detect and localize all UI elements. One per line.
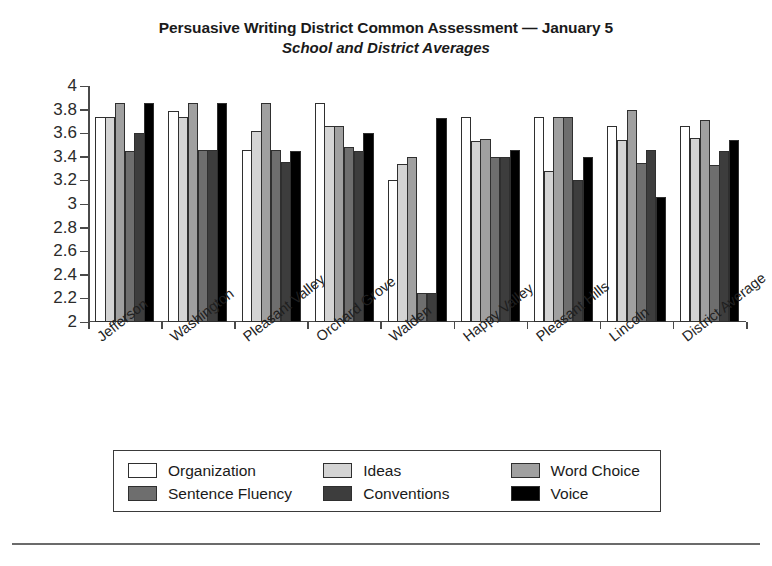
legend-item-voice: Voice	[511, 484, 660, 503]
y-tick-label: 3.6	[25, 122, 77, 143]
chart-title-block: Persuasive Writing District Common Asses…	[0, 18, 772, 57]
y-tick-mark	[80, 204, 88, 206]
bar-group	[461, 86, 519, 322]
y-tick-mark	[80, 109, 88, 111]
chart-figure: Persuasive Writing District Common Asses…	[0, 0, 772, 566]
legend-swatch-sentence-fluency	[128, 486, 157, 501]
legend-item-ideas: Ideas	[323, 461, 510, 480]
legend-label-voice: Voice	[551, 484, 589, 503]
bar	[490, 157, 500, 322]
y-tick-label: 2.2	[25, 287, 77, 308]
legend-label-organization: Organization	[168, 461, 256, 480]
legend-label-word-choice: Word Choice	[551, 461, 640, 480]
bar	[388, 180, 398, 322]
bar	[168, 111, 178, 322]
plot-area: 43.83.63.43.232.82.62.42.22	[88, 86, 746, 322]
y-tick-mark	[80, 251, 88, 253]
bar-group	[95, 86, 153, 322]
x-tick-mark	[746, 322, 748, 329]
legend-item-sentence-fluency: Sentence Fluency	[128, 484, 323, 503]
y-tick-label: 4	[25, 75, 77, 96]
bar	[334, 126, 344, 322]
bar	[261, 103, 271, 322]
legend-swatch-organization	[128, 463, 157, 478]
chart-legend: Organization Ideas Word Choice Sentence …	[113, 450, 661, 512]
bar	[344, 147, 354, 322]
bar	[134, 133, 144, 322]
bar	[680, 126, 690, 322]
legend-item-conventions: Conventions	[323, 484, 510, 503]
y-tick-mark	[80, 274, 88, 276]
bar	[480, 139, 490, 322]
bar	[198, 150, 208, 322]
bar	[251, 131, 261, 322]
y-tick-mark	[80, 133, 88, 135]
legend-label-conventions: Conventions	[363, 484, 449, 503]
y-tick-mark	[80, 298, 88, 300]
footer-divider	[12, 543, 760, 545]
bar	[105, 117, 115, 322]
bar	[690, 138, 700, 322]
legend-label-ideas: Ideas	[363, 461, 401, 480]
bar	[471, 141, 481, 322]
y-tick-mark	[80, 227, 88, 229]
bar	[324, 126, 334, 322]
bar	[627, 110, 637, 322]
bar	[553, 117, 563, 322]
bar	[407, 157, 417, 322]
legend-label-sentence-fluency: Sentence Fluency	[168, 484, 292, 503]
x-tick-mark	[527, 322, 529, 329]
y-axis-line	[88, 86, 90, 322]
bar	[646, 150, 656, 322]
y-tick-label: 3.2	[25, 169, 77, 190]
y-tick-label: 2	[25, 311, 77, 332]
x-tick-mark	[234, 322, 236, 329]
legend-row: Sentence Fluency Conventions Voice	[128, 482, 660, 505]
bar-group	[534, 86, 592, 322]
bar	[436, 118, 446, 322]
x-tick-mark	[600, 322, 602, 329]
bar	[544, 171, 554, 322]
bar	[271, 150, 281, 322]
bar	[461, 117, 471, 322]
bar-group	[242, 86, 300, 322]
legend-swatch-conventions	[323, 486, 352, 501]
bar	[636, 163, 646, 322]
legend-swatch-ideas	[323, 463, 352, 478]
bar-group	[168, 86, 226, 322]
x-tick-mark	[380, 322, 382, 329]
bar	[95, 117, 105, 322]
bar-group	[680, 86, 738, 322]
legend-item-word-choice: Word Choice	[511, 461, 660, 480]
y-tick-mark	[80, 86, 88, 88]
y-tick-label: 2.6	[25, 240, 77, 261]
y-tick-label: 2.4	[25, 264, 77, 285]
x-tick-mark	[88, 322, 90, 329]
y-tick-mark	[80, 180, 88, 182]
bar	[188, 103, 198, 322]
x-tick-mark	[673, 322, 675, 329]
y-tick-mark	[80, 322, 88, 324]
bar	[144, 103, 154, 322]
bar-group	[607, 86, 665, 322]
bar	[617, 140, 627, 322]
legend-swatch-word-choice	[511, 463, 540, 478]
bar	[656, 197, 666, 322]
chart-title: Persuasive Writing District Common Asses…	[0, 18, 772, 37]
y-tick-label: 2.8	[25, 217, 77, 238]
bar	[709, 165, 719, 322]
chart-subtitle: School and District Averages	[0, 38, 772, 57]
y-tick-label: 3.4	[25, 146, 77, 167]
legend-swatch-voice	[511, 486, 540, 501]
legend-row: Organization Ideas Word Choice	[128, 459, 660, 482]
bar	[178, 117, 188, 322]
bar	[563, 117, 573, 322]
bar	[397, 164, 407, 322]
y-tick-mark	[80, 156, 88, 158]
y-tick-label: 3	[25, 193, 77, 214]
legend-item-organization: Organization	[128, 461, 323, 480]
x-tick-mark	[161, 322, 163, 329]
x-tick-mark	[454, 322, 456, 329]
bar	[115, 103, 125, 322]
bar	[125, 151, 135, 322]
